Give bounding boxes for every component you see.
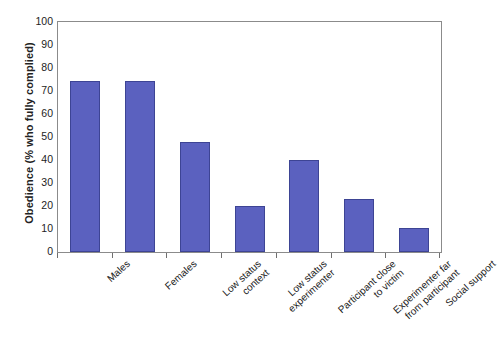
x-axis-label-line: Males [105,258,133,284]
y-tick-label: 60 [23,108,53,118]
x-axis-label: Low statuscontext [220,258,271,307]
bars-container [58,22,441,252]
y-tick-label: 40 [23,154,53,164]
y-tick-label: 90 [23,39,53,49]
bar [344,199,374,252]
y-tick-label: 10 [23,223,53,233]
y-tick-label: 30 [23,177,53,187]
y-axis-tick-labels: 1009080706050403020100 [20,21,53,253]
bar [180,142,210,252]
y-tick-label: 20 [23,200,53,210]
x-axis-label: Experimenter farfrom participant [391,258,461,325]
x-axis-label: Low statusexperimenter [277,258,336,314]
y-tick-label: 50 [23,131,53,141]
x-axis-label: Males [105,258,133,284]
bar [289,160,319,252]
x-axis-label-line: Females [163,258,199,292]
y-tick-label: 0 [23,246,53,256]
bar [399,228,429,252]
bar [70,81,100,252]
bar [125,81,155,252]
y-tick-label: 80 [23,62,53,72]
bar [235,206,265,252]
x-axis-label: Participant closeto victim [336,258,406,324]
x-axis-category-labels: MalesFemalesLow statuscontextLow statuse… [57,256,452,344]
y-tick-label: 70 [23,85,53,95]
y-tick-label: 100 [23,16,53,26]
x-axis-label: Females [163,258,199,292]
